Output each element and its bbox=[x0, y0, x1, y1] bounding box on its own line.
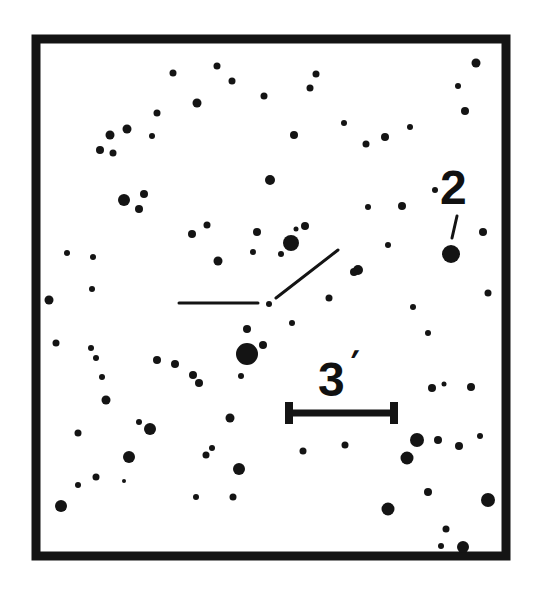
star bbox=[149, 133, 155, 139]
comparison-star bbox=[442, 245, 460, 263]
star bbox=[123, 125, 132, 134]
star bbox=[236, 343, 258, 365]
star bbox=[171, 360, 179, 368]
star bbox=[398, 202, 406, 210]
star bbox=[313, 71, 320, 78]
star bbox=[250, 249, 256, 255]
star bbox=[438, 543, 444, 549]
star bbox=[432, 187, 438, 193]
star bbox=[461, 107, 469, 115]
star bbox=[434, 436, 442, 444]
star bbox=[341, 120, 347, 126]
star bbox=[214, 257, 223, 266]
star bbox=[193, 494, 199, 500]
star bbox=[140, 190, 148, 198]
star bbox=[455, 83, 461, 89]
star bbox=[326, 295, 333, 302]
star bbox=[170, 70, 177, 77]
star bbox=[455, 442, 463, 450]
star bbox=[203, 452, 210, 459]
star bbox=[365, 204, 371, 210]
star bbox=[214, 63, 221, 70]
star bbox=[457, 541, 469, 553]
star bbox=[229, 78, 236, 85]
star bbox=[88, 345, 94, 351]
star bbox=[289, 320, 295, 326]
star bbox=[233, 463, 245, 475]
star bbox=[93, 355, 99, 361]
star bbox=[75, 482, 81, 488]
star bbox=[189, 371, 197, 379]
star bbox=[96, 146, 104, 154]
star bbox=[90, 254, 96, 260]
scale-bar-left-cap bbox=[285, 402, 293, 424]
star bbox=[410, 433, 424, 447]
star bbox=[55, 500, 67, 512]
star bbox=[136, 419, 142, 425]
star bbox=[265, 175, 275, 185]
star bbox=[226, 414, 235, 423]
star bbox=[122, 479, 126, 483]
star bbox=[428, 384, 436, 392]
star bbox=[75, 430, 82, 437]
star bbox=[154, 110, 161, 117]
star bbox=[204, 222, 211, 229]
star bbox=[195, 379, 203, 387]
star bbox=[307, 85, 314, 92]
star bbox=[467, 383, 475, 391]
comparison-star-label: 2 bbox=[440, 164, 467, 212]
star bbox=[424, 488, 432, 496]
scale-bar-label: 3 bbox=[318, 356, 345, 404]
star bbox=[230, 494, 237, 501]
star bbox=[118, 194, 130, 206]
star bbox=[243, 325, 251, 333]
star bbox=[410, 304, 416, 310]
star bbox=[209, 445, 215, 451]
star bbox=[425, 330, 431, 336]
star bbox=[300, 448, 307, 455]
chart-frame bbox=[36, 39, 506, 556]
comparison-pointer bbox=[452, 216, 457, 238]
star bbox=[407, 124, 413, 130]
star bbox=[53, 340, 60, 347]
star bbox=[485, 290, 492, 297]
star bbox=[193, 99, 202, 108]
star bbox=[479, 228, 487, 236]
target-star bbox=[266, 301, 272, 307]
star bbox=[261, 93, 268, 100]
star bbox=[93, 474, 100, 481]
star bbox=[401, 452, 414, 465]
star bbox=[153, 356, 161, 364]
star bbox=[472, 59, 481, 68]
star bbox=[123, 451, 135, 463]
star bbox=[144, 423, 156, 435]
star bbox=[110, 150, 117, 157]
star bbox=[294, 227, 299, 232]
target-marker bbox=[179, 250, 338, 307]
star bbox=[363, 141, 370, 148]
star bbox=[64, 250, 70, 256]
star bbox=[259, 341, 267, 349]
star bbox=[301, 222, 309, 230]
star bbox=[385, 242, 391, 248]
star bbox=[135, 205, 143, 213]
star bbox=[481, 493, 495, 507]
star bbox=[283, 235, 299, 251]
star bbox=[342, 442, 349, 449]
star bbox=[99, 374, 105, 380]
star bbox=[102, 396, 111, 405]
comparison-star-2 bbox=[442, 216, 460, 263]
star bbox=[238, 373, 244, 379]
star bbox=[477, 433, 483, 439]
scale-bar-right-cap bbox=[390, 402, 398, 424]
star bbox=[45, 296, 54, 305]
star bbox=[381, 133, 389, 141]
star bbox=[89, 286, 95, 292]
star-finder-chart bbox=[0, 0, 540, 593]
marker-diagonal-line bbox=[276, 250, 338, 298]
star bbox=[188, 230, 196, 238]
star bbox=[278, 251, 284, 257]
star bbox=[443, 526, 450, 533]
star bbox=[290, 131, 298, 139]
star bbox=[350, 268, 358, 276]
